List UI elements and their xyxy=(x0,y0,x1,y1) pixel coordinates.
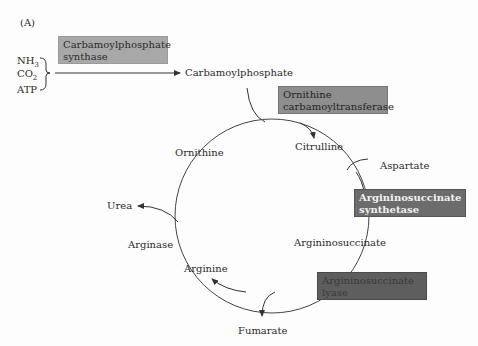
enzyme-line-2: synthase xyxy=(63,51,163,63)
enzyme-line-1: Ornithine xyxy=(283,89,383,101)
enzyme-argininosuccinate-synthetase: Argininosuccinate synthetase xyxy=(354,189,466,217)
metabolite-arginine: Arginine xyxy=(184,263,228,275)
metabolite-carbamoylphosphate: Carbamoylphosphate xyxy=(185,67,293,79)
co2-label: CO2 xyxy=(17,68,37,84)
enzyme-line-2: carbamoyltransferase xyxy=(283,101,383,113)
enzyme-line-1: Argininosuccinate xyxy=(359,192,461,204)
enzyme-line-2: synthetase xyxy=(359,204,461,216)
enzyme-ornithine-carbamoyltransferase: Ornithine carbamoyltransferase xyxy=(278,86,388,114)
enzyme-line-1: Carbamoylphosphate xyxy=(63,39,163,51)
atp-label: ATP xyxy=(17,84,37,96)
metabolite-argininosuccinate: Argininosuccinate xyxy=(294,237,386,249)
enzyme-carbamoylphosphate-synthase: Carbamoylphosphate synthase xyxy=(58,36,168,64)
panel-label: (A) xyxy=(20,17,35,29)
metabolite-ornithine: Ornithine xyxy=(175,147,224,159)
enzyme-argininosuccinate-lyase: Argininosuccinate lyase xyxy=(317,272,427,300)
metabolite-fumarate: Fumarate xyxy=(238,325,288,337)
co2-text: CO xyxy=(17,68,33,79)
co2-subscript: 2 xyxy=(33,74,37,82)
metabolite-aspartate: Aspartate xyxy=(380,160,429,172)
metabolite-urea: Urea xyxy=(107,200,132,212)
metabolite-citrulline: Citrulline xyxy=(295,141,343,153)
urea-cycle-diagram: (A) NH3 CO2 ATP Carbamoylphosphate synth… xyxy=(0,0,478,346)
enzyme-line-1: Argininosuccinate xyxy=(322,275,422,287)
enzyme-line-2: lyase xyxy=(322,287,422,299)
enzyme-arginase: Arginase xyxy=(128,239,173,251)
nh3-text: NH xyxy=(17,55,34,66)
